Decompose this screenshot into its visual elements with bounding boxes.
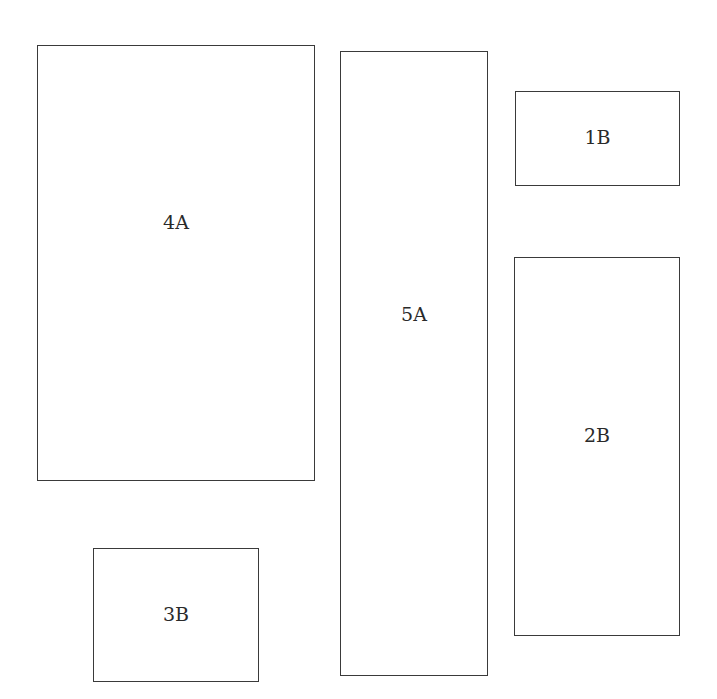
box-label-2b: 2B (584, 424, 610, 446)
box-label-1b: 1B (584, 126, 610, 148)
box-4a: 4A (37, 45, 315, 481)
box-2b: 2B (514, 257, 680, 636)
box-1b: 1B (515, 91, 680, 186)
box-label-5a: 5A (401, 303, 427, 325)
box-label-3b: 3B (163, 603, 189, 625)
box-label-4a: 4A (163, 211, 189, 233)
box-3b: 3B (93, 548, 259, 682)
box-5a: 5A (340, 51, 488, 676)
